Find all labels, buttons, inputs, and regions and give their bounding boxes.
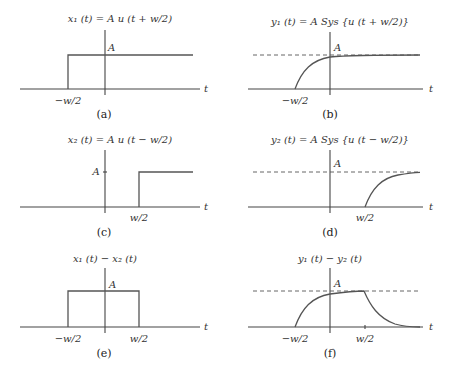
panel-e-amplitude-label: A (108, 279, 116, 290)
panel-b-response-curve (295, 55, 420, 89)
panel-f: y₁ (t) − y₂ (t) A −w/2 w/2 t (f) (248, 253, 434, 360)
panel-d: y₂ (t) = A Sys {u (t − w/2)} A w/2 t (d) (248, 134, 434, 239)
panel-e-tick-w2: w/2 (130, 333, 148, 344)
panel-f-amplitude-label: A (333, 278, 341, 289)
panel-c: x₂ (t) = A u (t − w/2) A w/2 t (c) (20, 134, 209, 239)
panel-a-amplitude-label: A (107, 42, 115, 53)
panel-a-step-signal (68, 55, 193, 89)
panel-c-amplitude-label: A (91, 166, 99, 177)
panel-b-caption: (b) (322, 108, 338, 121)
panel-c-t-label: t (204, 201, 209, 212)
panel-f-tick-neg-w2: −w/2 (282, 333, 309, 344)
panel-e-title: x₁ (t) − x₂ (t) (73, 253, 137, 264)
panel-d-response-curve (365, 172, 420, 207)
panel-a-caption: (a) (96, 108, 111, 121)
panel-c-step-signal (139, 172, 193, 207)
panel-b-title: y₁ (t) = A Sys {u (t + w/2)} (270, 16, 409, 27)
panel-a-title: x₁ (t) = A u (t + w/2) (68, 13, 172, 24)
panel-a-t-label: t (204, 83, 209, 94)
panel-d-caption: (d) (322, 226, 338, 239)
panel-f-tick-w2: w/2 (356, 333, 374, 344)
panel-a-tick-neg-w2: −w/2 (55, 95, 82, 106)
panel-e-pulse-signal (68, 291, 139, 327)
panel-b-t-label: t (429, 83, 434, 94)
panel-d-t-label: t (429, 201, 434, 212)
panel-c-title: x₂ (t) = A u (t − w/2) (68, 134, 172, 145)
panel-f-caption: (f) (324, 347, 337, 360)
panel-a: x₁ (t) = A u (t + w/2) A −w/2 t (a) (20, 13, 209, 121)
panel-f-response-curve (295, 291, 420, 327)
panel-d-title: y₂ (t) = A Sys {u (t − w/2)} (270, 134, 409, 145)
panel-d-tick-w2: w/2 (356, 212, 374, 223)
panel-c-caption: (c) (97, 226, 112, 239)
panel-e-caption: (e) (96, 347, 111, 360)
panel-f-t-label: t (429, 321, 434, 332)
panel-e-tick-neg-w2: −w/2 (55, 333, 82, 344)
figure: x₁ (t) = A u (t + w/2) A −w/2 t (a) y₁ (… (0, 0, 449, 373)
panel-b-amplitude-label: A (333, 42, 341, 53)
panel-c-tick-w2: w/2 (130, 212, 148, 223)
panel-f-title: y₁ (t) − y₂ (t) (297, 253, 362, 264)
panel-b-tick-neg-w2: −w/2 (282, 95, 309, 106)
panel-b: y₁ (t) = A Sys {u (t + w/2)} A −w/2 t (b… (248, 16, 434, 121)
panel-d-amplitude-label: A (333, 158, 341, 169)
panel-e: x₁ (t) − x₂ (t) A −w/2 w/2 t (e) (20, 253, 209, 360)
panel-e-t-label: t (204, 321, 209, 332)
